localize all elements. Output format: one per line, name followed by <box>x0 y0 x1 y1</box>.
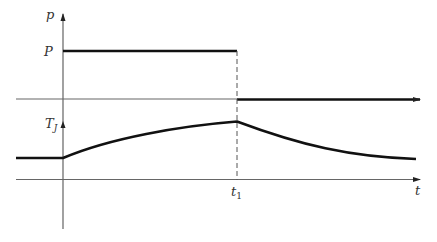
junction-temperature-curve <box>16 122 416 160</box>
t1-label: t1 <box>231 184 242 201</box>
t-axis-label: t <box>415 183 421 198</box>
power-temperature-diagram: p P TJ t1 t <box>0 0 437 242</box>
tj-label: TJ <box>45 116 59 133</box>
tj-axis-arrow-icon <box>61 121 66 128</box>
p-axis-label: p <box>46 7 55 22</box>
P-level-label: P <box>43 44 53 59</box>
